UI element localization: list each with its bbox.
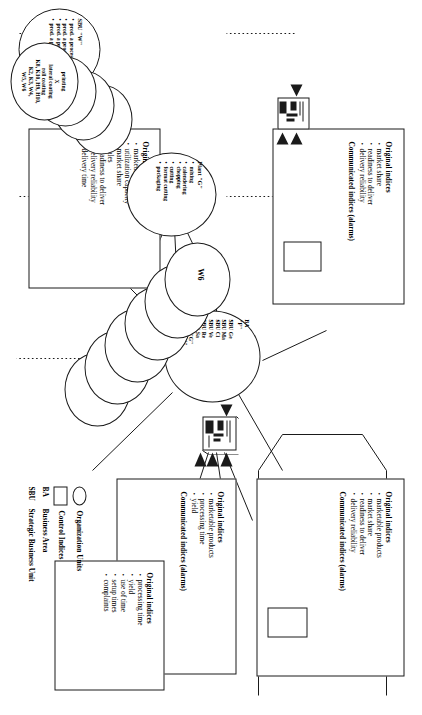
arrowhead (290, 84, 302, 96)
arrowhead (194, 452, 206, 466)
diagram-canvas: Original indices marketable products mar… (0, 0, 422, 715)
arrowhead (276, 132, 288, 144)
arrowhead (220, 404, 232, 416)
arrowheads (0, 0, 422, 715)
arrowhead (290, 132, 302, 144)
arrowhead (220, 452, 232, 466)
arrowhead (206, 452, 218, 466)
figure-page: Original indices marketable products mar… (0, 0, 422, 715)
